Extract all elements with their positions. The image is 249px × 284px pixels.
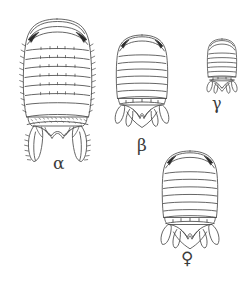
gamma-segments (208, 53, 236, 72)
figure-beta (115, 35, 169, 128)
beta-pleotelson (122, 105, 162, 128)
alpha-pleotelson (33, 126, 82, 139)
figure-label-gamma: γ (212, 96, 222, 112)
beta-segments (117, 55, 166, 92)
female-segments (163, 172, 217, 211)
figure-label-alpha: α (53, 155, 64, 172)
figure-label-female: ♀ (181, 250, 193, 267)
figure-alpha (20, 19, 96, 162)
alpha-pleon-band (27, 114, 89, 126)
gamma-cephalon (209, 41, 235, 50)
alpha-marginal-spines-left (20, 44, 27, 112)
beta-uropod-right (151, 105, 169, 126)
beta-uropod-left (115, 105, 133, 126)
alpha-uropod-right (72, 127, 86, 162)
beta-pleon-band (118, 97, 167, 105)
figure-female (161, 151, 219, 249)
female-pleotelson (169, 225, 212, 249)
figure-gamma (207, 39, 237, 93)
specimen-plate: α β γ ♀ (0, 0, 249, 284)
figure-label-beta: β (137, 137, 147, 154)
specimen-illustration-svg (0, 0, 249, 284)
female-uropod-left (161, 225, 180, 249)
alpha-marginal-spines-right (89, 44, 96, 112)
female-pleon-band (164, 216, 217, 224)
alpha-dorsal-tubercles (40, 46, 75, 94)
gamma-pleon-band (208, 76, 236, 80)
alpha-uropod-left (28, 127, 42, 162)
female-uropod-right (200, 225, 219, 249)
